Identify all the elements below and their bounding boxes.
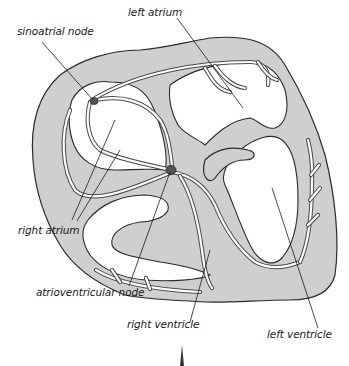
label-left-atrium: left atrium xyxy=(128,6,182,18)
label-right-atrium: right atrium xyxy=(18,224,79,236)
bottom-marker xyxy=(180,345,184,366)
label-sinoatrial-node: sinoatrial node xyxy=(17,25,94,37)
label-atrioventricular-node: atrioventricular node xyxy=(36,286,144,298)
atrioventricular-node-marker xyxy=(166,166,176,175)
label-right-ventricle: right ventricle xyxy=(127,318,199,330)
label-left-ventricle: left ventricle xyxy=(267,328,332,340)
heart-diagram xyxy=(0,0,349,366)
